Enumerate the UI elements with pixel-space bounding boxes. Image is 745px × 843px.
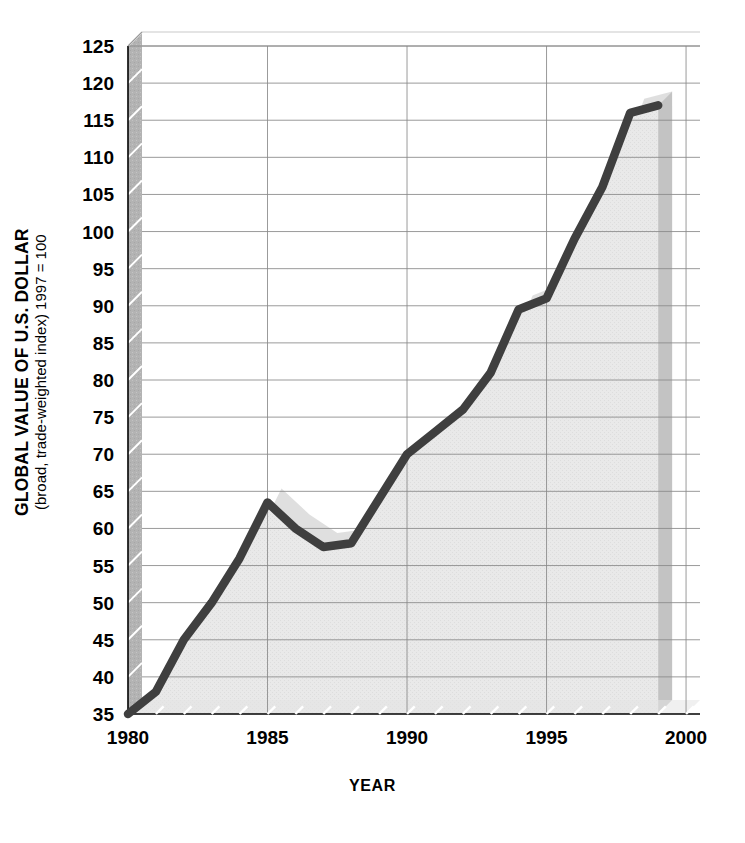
chart-figure: GLOBAL VALUE OF U.S. DOLLAR (broad, trad… (0, 0, 745, 843)
area-right-face-3d (658, 91, 672, 714)
plot-area (0, 0, 745, 843)
